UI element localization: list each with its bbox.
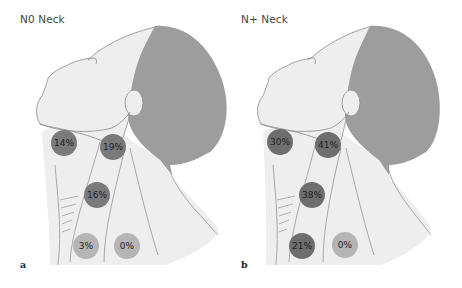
- node-level-iii: 38%: [299, 182, 325, 208]
- node-level-iv: 21%: [289, 233, 315, 259]
- node-level-i: 30%: [267, 129, 293, 155]
- node-level-i: 14%: [51, 130, 77, 156]
- panel-b: N+ Neck 30% 41% 38% 21% 0% b: [231, 0, 462, 288]
- panel-letter: a: [20, 259, 26, 270]
- node-level-ii: 41%: [315, 132, 341, 158]
- panel-title: N0 Neck: [20, 13, 65, 25]
- panel-a: N0 Neck 14% 19% 16% 3% 0% a: [0, 0, 231, 288]
- ear: [342, 90, 360, 116]
- ear: [125, 90, 143, 116]
- node-level-v: 0%: [114, 233, 140, 259]
- panel-letter: b: [241, 259, 248, 270]
- node-level-v: 0%: [332, 232, 358, 258]
- node-level-iv: 3%: [73, 233, 99, 259]
- node-level-iii: 16%: [84, 182, 110, 208]
- panel-title: N+ Neck: [241, 13, 288, 25]
- node-level-ii: 19%: [100, 134, 126, 160]
